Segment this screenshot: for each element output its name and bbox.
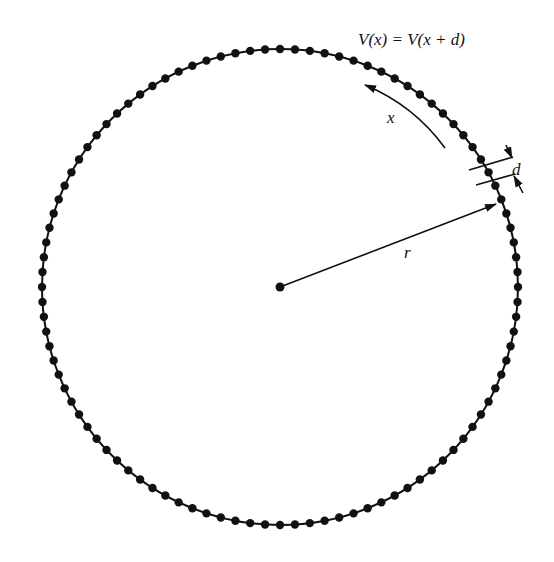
radius-arrow (280, 204, 496, 287)
lattice-site (497, 195, 505, 203)
lattice-site (468, 423, 476, 431)
lattice-site (459, 435, 467, 443)
lattice-site (510, 238, 518, 246)
lattice-site (49, 356, 57, 364)
lattice-site (416, 475, 424, 483)
lattice-site (510, 327, 518, 335)
lattice-site (306, 519, 314, 527)
lattice-site (363, 504, 371, 512)
lattice-site (231, 517, 239, 525)
lattice-site (38, 298, 46, 306)
lattice-site (42, 238, 50, 246)
lattice-site (506, 342, 514, 350)
lattice-site (320, 49, 328, 57)
lattice-site (75, 410, 83, 418)
lattice-site (174, 498, 182, 506)
lattice-site (484, 397, 492, 405)
lattice-site (513, 298, 521, 306)
lattice-site (45, 342, 53, 350)
lattice-site (174, 67, 182, 75)
lattice-site (514, 283, 522, 291)
lattice-site (60, 384, 68, 392)
lattice-site (102, 446, 110, 454)
lattice-site (261, 520, 269, 528)
lattice-site (497, 370, 505, 378)
lattice-site (67, 168, 75, 176)
lattice-site (390, 491, 398, 499)
lattice-site (512, 313, 520, 321)
lattice-site (42, 327, 50, 335)
lattice-site (477, 155, 485, 163)
ring-lattice-diagram: V(x) = V(x + d) x d r (0, 0, 554, 562)
lattice-site (124, 466, 132, 474)
lattice-site (45, 224, 53, 232)
periodicity-equation: V(x) = V(x + d) (358, 30, 465, 50)
lattice-site (291, 520, 299, 528)
lattice-site (202, 56, 210, 64)
lattice-site (60, 181, 68, 189)
lattice-site (148, 82, 156, 90)
lattice-site (502, 209, 510, 217)
lattice-site (377, 498, 385, 506)
lattice-site (261, 45, 269, 53)
lattice-site (363, 62, 371, 70)
lattice-site (291, 45, 299, 53)
lattice-site (161, 491, 169, 499)
lattice-site (38, 283, 46, 291)
lattice-site (506, 224, 514, 232)
lattice-site (403, 484, 411, 492)
lattice-site (148, 484, 156, 492)
lattice-site (428, 99, 436, 107)
lattice-site (306, 47, 314, 55)
lattice-site (459, 131, 467, 139)
lattice-site (449, 446, 457, 454)
lattice-site (320, 517, 328, 525)
lattice-site (377, 67, 385, 75)
lattice-site (349, 509, 357, 517)
lattice-site (38, 268, 46, 276)
lattice-site (55, 370, 63, 378)
lattice-site (67, 397, 75, 405)
arc-arrow-x (365, 85, 445, 148)
lattice-site (231, 49, 239, 57)
lattice-site (468, 143, 476, 151)
ring-lattice-svg (0, 0, 554, 562)
lattice-site (124, 99, 132, 107)
lattice-site (217, 52, 225, 60)
lattice-site (217, 513, 225, 521)
lattice-site (136, 475, 144, 483)
lattice-site (276, 521, 284, 529)
lattice-site (491, 384, 499, 392)
lattice-site (202, 509, 210, 517)
lattice-site (136, 90, 144, 98)
lattice-site (416, 90, 424, 98)
lattice-site (92, 435, 100, 443)
lattice-site (161, 74, 169, 82)
lattice-site (75, 155, 83, 163)
lattice-site (40, 313, 48, 321)
lattice-site (335, 52, 343, 60)
lattice-site (513, 268, 521, 276)
lattice-site (349, 56, 357, 64)
lattice-site (403, 82, 411, 90)
lattice-site (83, 143, 91, 151)
center-dot (276, 283, 285, 292)
lattice-site (40, 253, 48, 261)
lattice-site (390, 74, 398, 82)
lattice-site (188, 504, 196, 512)
lattice-site (55, 195, 63, 203)
lattice-site (502, 356, 510, 364)
radius-label: r (404, 243, 411, 263)
lattice-site (449, 120, 457, 128)
lattice-site (428, 466, 436, 474)
lattice-site (335, 513, 343, 521)
lattice-site (477, 410, 485, 418)
lattice-site (439, 456, 447, 464)
lattice-site (276, 45, 284, 53)
lattice-site (102, 120, 110, 128)
lattice-site (83, 423, 91, 431)
lattice-site (188, 62, 196, 70)
lattice-site (92, 131, 100, 139)
lattice-site (491, 181, 499, 189)
spacing-label: d (512, 160, 521, 180)
